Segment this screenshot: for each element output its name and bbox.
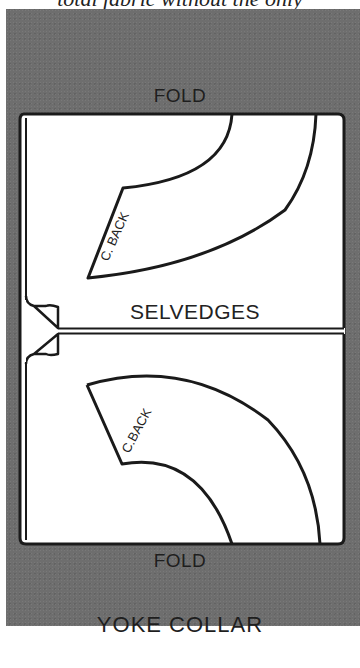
selvedge-line — [58, 328, 345, 334]
diagram-title: YOKE COLLAR — [0, 612, 360, 638]
fold-label-bottom: FOLD — [0, 550, 360, 572]
selvedges-label: SELVEDGES — [0, 300, 360, 324]
fold-label-top: FOLD — [0, 85, 360, 107]
